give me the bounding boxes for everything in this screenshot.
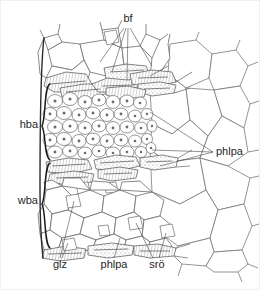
hba-parenchyma-group xyxy=(43,93,157,160)
label-phlpa-bottom: phlpa xyxy=(101,258,129,270)
figure-container: bf hba wba phlpa glz phlpa srö xyxy=(0,0,260,290)
bark-cross-section-figure: bf hba wba phlpa glz phlpa srö xyxy=(0,0,260,290)
label-wba: wba xyxy=(17,194,39,206)
label-sro: srö xyxy=(149,258,164,270)
label-phlpa-right: phlpa xyxy=(216,145,244,157)
label-glz: glz xyxy=(53,258,67,270)
label-bf: bf xyxy=(123,12,133,24)
top-stone-cell xyxy=(104,30,119,45)
label-hba: hba xyxy=(20,118,39,130)
